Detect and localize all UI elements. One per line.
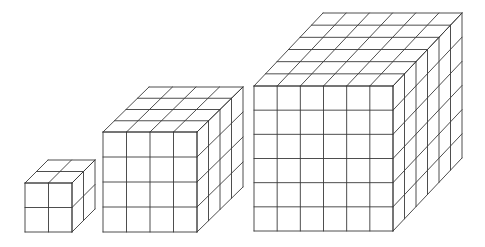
cubes-illustration bbox=[0, 0, 485, 247]
cube-small-2x2x2 bbox=[25, 160, 95, 232]
diagram-canvas bbox=[0, 0, 485, 247]
cube-medium-4x4x4 bbox=[103, 87, 243, 232]
cube-large-6x6x6 bbox=[254, 13, 462, 231]
